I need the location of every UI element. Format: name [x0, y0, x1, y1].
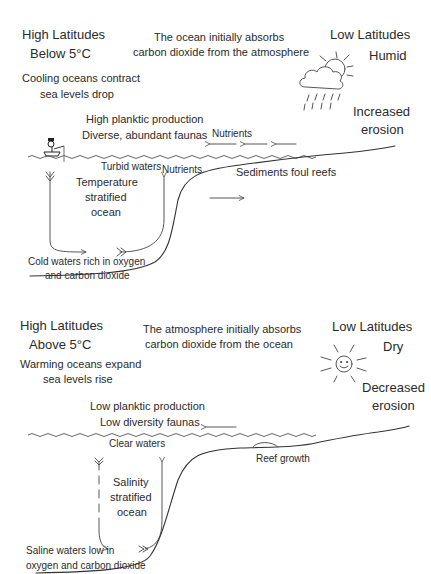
stratification-line-3: ocean — [91, 206, 121, 218]
stratification-line-2: stratified — [85, 191, 127, 203]
high-latitudes-title: High Latitudes — [22, 27, 106, 42]
erosion-line-2: erosion — [361, 122, 404, 137]
deep-water-line-1: Cold waters rich in oxygen — [28, 256, 145, 267]
stratification-line-2: stratified — [110, 491, 152, 503]
shelf-note: Sediments foul reefs — [236, 166, 337, 178]
low-latitudes-climate: Dry — [383, 339, 404, 354]
sea-level-line-2: sea levels drop — [40, 88, 114, 100]
stratification-line-1: Temperature — [76, 176, 138, 188]
low-latitudes-title: Low Latitudes — [330, 27, 411, 42]
productivity-line-2: Diverse, abundant faunas — [82, 129, 208, 141]
high-latitudes-title: High Latitudes — [20, 318, 104, 333]
deep-water-line-2: and carbon dioxide — [45, 270, 130, 281]
water-clarity-label: Turbid waters — [101, 161, 161, 172]
erosion-line-1: Increased — [353, 104, 410, 119]
circulation-path — [95, 458, 162, 552]
productivity-line-1: High planktic production — [86, 113, 203, 125]
sea-surface — [28, 434, 316, 437]
surface-nutrients-label: Nutrients — [212, 128, 252, 139]
ocean-climate-diagram: High Latitudes Below 5°C Cooling oceans … — [0, 0, 431, 574]
deep-water-line-2: oxygen and carbon dioxide — [26, 560, 146, 571]
erosion-line-2: erosion — [372, 398, 415, 413]
cloud-sun-rain-icon — [300, 52, 353, 110]
high-latitudes-temp: Above 5°C — [29, 337, 91, 352]
stratification-line-1: Salinity — [113, 476, 149, 488]
sea-level-line-1: Warming oceans expand — [20, 358, 141, 370]
exchange-line-1: The atmosphere initially absorbs — [143, 323, 302, 335]
deep-water-line-1: Saline waters low in — [26, 545, 114, 556]
shelf-note: Reef growth — [256, 453, 310, 464]
panel-cooling: High Latitudes Below 5°C Cooling oceans … — [22, 27, 411, 281]
exchange-line-1: The ocean initially absorbs — [154, 31, 285, 43]
low-latitudes-title: Low Latitudes — [332, 319, 413, 334]
stratification-line-3: ocean — [117, 506, 147, 518]
productivity-line-2: Low diversity faunas — [100, 416, 200, 428]
sea-level-line-1: Cooling oceans contract — [22, 72, 140, 84]
panel-warming: High Latitudes Above 5°C Warming oceans … — [20, 318, 425, 573]
water-clarity-label: Clear waters — [109, 438, 165, 449]
smiling-sun-icon — [321, 345, 366, 382]
reef-mound — [253, 443, 278, 448]
exchange-line-2: carbon dioxide from the ocean — [145, 338, 293, 350]
low-latitudes-climate: Humid — [369, 48, 407, 63]
high-latitudes-temp: Below 5°C — [30, 46, 91, 61]
upwelling-nutrients-label: Nutrients — [162, 164, 202, 175]
productivity-line-1: Low planktic production — [90, 400, 205, 412]
exchange-line-2: carbon dioxide from the atmosphere — [133, 46, 309, 58]
sea-level-line-2: sea levels rise — [43, 373, 113, 385]
erosion-line-1: Decreased — [362, 380, 425, 395]
sea-surface — [28, 156, 316, 159]
